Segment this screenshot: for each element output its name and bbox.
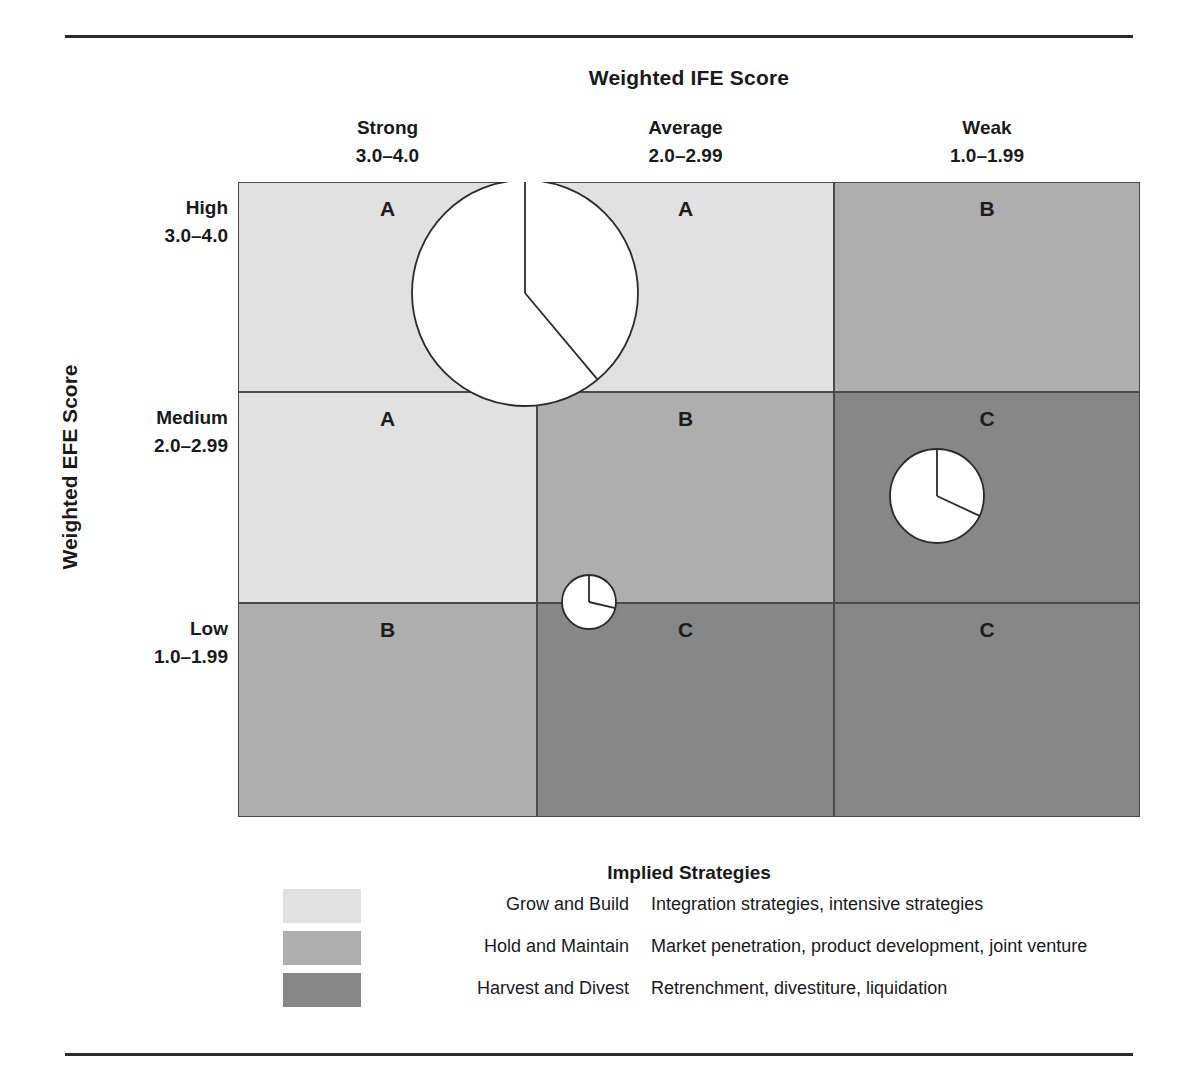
row-header-label: High bbox=[78, 194, 228, 222]
matrix-cell-letter: A bbox=[538, 197, 833, 221]
ie-matrix-grid: AABABCBCC bbox=[238, 182, 1140, 817]
row-header-range: 3.0–4.0 bbox=[78, 222, 228, 250]
legend-item-name: Harvest and Divest bbox=[371, 978, 629, 999]
matrix-cell-low-weak[interactable]: C bbox=[834, 603, 1140, 817]
column-header-range: 3.0–4.0 bbox=[238, 142, 537, 170]
legend-swatch bbox=[283, 889, 361, 923]
matrix-cell-high-weak[interactable]: B bbox=[834, 182, 1140, 392]
bottom-horizontal-rule bbox=[65, 1053, 1133, 1056]
column-header-range: 2.0–2.99 bbox=[537, 142, 834, 170]
matrix-cell-high-average[interactable]: A bbox=[537, 182, 834, 392]
x-axis-title: Weighted IFE Score bbox=[238, 66, 1140, 90]
row-header-medium: Medium 2.0–2.99 bbox=[78, 404, 228, 459]
legend-item-description: Retrenchment, divestiture, liquidation bbox=[651, 978, 1181, 999]
matrix-cell-low-average[interactable]: C bbox=[537, 603, 834, 817]
column-header-range: 1.0–1.99 bbox=[834, 142, 1140, 170]
column-header-strong: Strong 3.0–4.0 bbox=[238, 114, 537, 169]
column-header-label: Strong bbox=[238, 114, 537, 142]
matrix-cell-letter: A bbox=[239, 197, 536, 221]
legend-item-name: Hold and Maintain bbox=[371, 936, 629, 957]
matrix-cell-letter: B bbox=[538, 407, 833, 431]
legend-item-description: Integration strategies, intensive strate… bbox=[651, 894, 1181, 915]
legend-swatch bbox=[283, 973, 361, 1007]
row-header-low: Low 1.0–1.99 bbox=[78, 615, 228, 670]
matrix-cell-letter: B bbox=[239, 618, 536, 642]
row-header-range: 1.0–1.99 bbox=[78, 643, 228, 671]
matrix-cell-letter: C bbox=[835, 407, 1139, 431]
row-header-label: Low bbox=[78, 615, 228, 643]
matrix-cell-letter: C bbox=[538, 618, 833, 642]
row-header-high: High 3.0–4.0 bbox=[78, 194, 228, 249]
matrix-cell-medium-weak[interactable]: C bbox=[834, 392, 1140, 603]
row-header-range: 2.0–2.99 bbox=[78, 432, 228, 460]
column-header-label: Weak bbox=[834, 114, 1140, 142]
matrix-cell-low-strong[interactable]: B bbox=[238, 603, 537, 817]
top-horizontal-rule bbox=[65, 35, 1133, 38]
matrix-cell-medium-strong[interactable]: A bbox=[238, 392, 537, 603]
matrix-cell-letter: A bbox=[239, 407, 536, 431]
column-header-average: Average 2.0–2.99 bbox=[537, 114, 834, 169]
column-header-weak: Weak 1.0–1.99 bbox=[834, 114, 1140, 169]
column-header-label: Average bbox=[537, 114, 834, 142]
legend-title: Implied Strategies bbox=[238, 862, 1140, 884]
legend-item-description: Market penetration, product development,… bbox=[651, 936, 1181, 957]
matrix-cell-letter: B bbox=[835, 197, 1139, 221]
row-header-label: Medium bbox=[78, 404, 228, 432]
legend-swatch bbox=[283, 931, 361, 965]
matrix-cell-letter: C bbox=[835, 618, 1139, 642]
matrix-cell-medium-average[interactable]: B bbox=[537, 392, 834, 603]
matrix-cell-high-strong[interactable]: A bbox=[238, 182, 537, 392]
legend-item-name: Grow and Build bbox=[371, 894, 629, 915]
y-axis-title: Weighted EFE Score bbox=[58, 337, 82, 597]
